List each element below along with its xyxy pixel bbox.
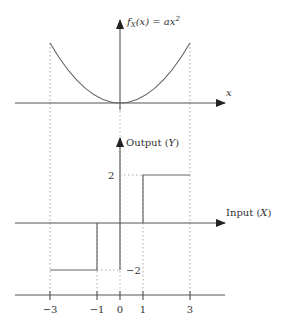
- output-axis-label: Output (Y): [126, 137, 179, 148]
- x-tick-neg1: −1: [90, 304, 105, 315]
- x-axis-label: x: [226, 87, 232, 98]
- x-tick-3: 3: [187, 304, 193, 315]
- pdf-label: fX(x) = ax2: [126, 15, 180, 29]
- input-axis-label: Input (X): [226, 207, 271, 218]
- x-tick-0: 0: [117, 304, 123, 315]
- y-tick-neg2: −2: [126, 265, 141, 276]
- step-negative: [50, 223, 97, 270]
- step-positive: [143, 175, 190, 223]
- pdf-plot: fX(x) = ax2 x: [15, 15, 232, 110]
- y-tick-2: 2: [108, 170, 114, 181]
- diagram-canvas: fX(x) = ax2 x Output (Y) Input (X) 2 −2 …: [0, 0, 288, 329]
- x-tick-neg3: −3: [43, 304, 58, 315]
- x-tick-1: 1: [140, 304, 146, 315]
- bottom-scale: −3 −1 0 1 3: [15, 291, 225, 315]
